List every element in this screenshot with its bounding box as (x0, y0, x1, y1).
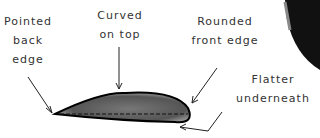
dark-corner-shape (285, 0, 320, 70)
label-rounded-front-edge: Rounded front edge (185, 12, 265, 50)
label-flatter-underneath: Flatter underneath (228, 70, 318, 108)
airfoil-shape (55, 93, 190, 123)
label-pointed-back-edge: Pointed back edge (2, 12, 54, 69)
label-curved-on-top: Curved on top (90, 6, 150, 44)
